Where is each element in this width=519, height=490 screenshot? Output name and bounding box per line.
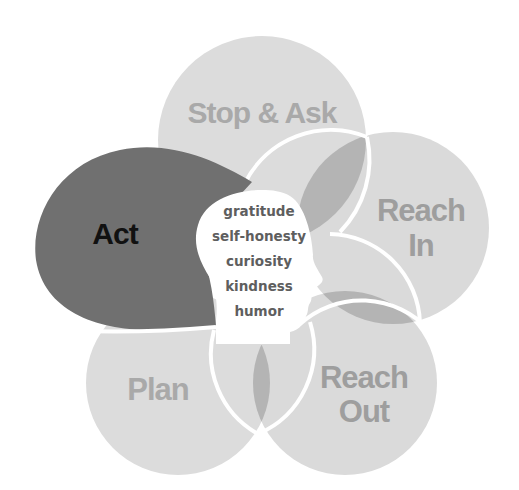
label-reach-out-line1: Reach [320, 360, 408, 395]
label-reach-in-line2: In [408, 228, 434, 263]
label-reach-in-line1: Reach [377, 193, 465, 228]
virtue-kindness: kindness [225, 278, 293, 294]
virtue-humor: humor [234, 303, 284, 319]
virtue-curiosity: curiosity [226, 253, 292, 269]
label-reach-out-line2: Out [339, 394, 390, 429]
virtue-gratitude: gratitude [223, 203, 294, 219]
label-act: Act [92, 217, 138, 250]
flower-diagram: Stop & Ask Reach In Reach Out Plan Act g… [0, 0, 519, 490]
label-plan: Plan [127, 372, 189, 407]
label-stop-ask: Stop & Ask [188, 96, 338, 129]
virtue-self-honesty: self-honesty [212, 228, 306, 244]
